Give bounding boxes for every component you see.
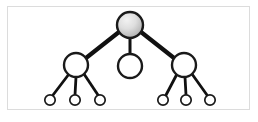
leaf-nodes [45, 95, 215, 105]
node-mid-left[interactable] [64, 53, 88, 77]
edge-mid-right-to-leaf-5 [185, 77, 186, 95]
node-root[interactable] [117, 12, 143, 38]
node-mid-center[interactable] [118, 54, 142, 78]
node-mid-right[interactable] [172, 53, 196, 77]
node-leaf-3[interactable] [95, 95, 105, 105]
node-leaf-1[interactable] [45, 95, 55, 105]
edge-mid-right-to-leaf-6 [192, 74, 207, 95]
figure-root: Hierarchical tree diagram [0, 0, 258, 122]
root-node-group [117, 12, 143, 38]
edge-root-to-mid-right [141, 32, 174, 58]
edge-mid-left-to-leaf-3 [84, 74, 98, 95]
mid-level-nodes [64, 53, 196, 78]
edge-mid-right-to-leaf-4 [166, 74, 177, 95]
node-leaf-6[interactable] [205, 95, 215, 105]
edge-root-to-mid-left [86, 32, 119, 58]
node-leaf-4[interactable] [158, 95, 168, 105]
tree-diagram [0, 0, 258, 122]
edge-mid-left-to-leaf-2 [75, 77, 76, 95]
node-leaf-5[interactable] [181, 95, 191, 105]
node-leaf-2[interactable] [70, 95, 80, 105]
edge-mid-left-to-leaf-1 [53, 74, 69, 95]
